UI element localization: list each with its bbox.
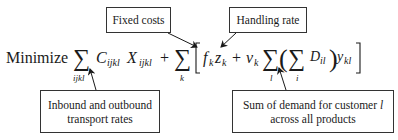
handling-rate-v-sub: k — [254, 57, 259, 68]
sum-index-i: i — [296, 73, 299, 83]
sum-index-k: k — [180, 73, 185, 83]
open-bracket — [196, 43, 200, 73]
flow-var-y-sub: kl — [344, 55, 351, 66]
demand-d: D — [309, 49, 320, 64]
sum-symbol-3: ∑ — [262, 45, 279, 72]
transport-rates-arrow — [90, 69, 96, 90]
sum-index-l: l — [270, 73, 273, 83]
cost-coef-sub: ijkl — [107, 57, 120, 68]
objective-equation: Minimize ∑ ijkl C ijkl X ijkl + ∑ k f k … — [0, 0, 398, 140]
sum-symbol-1: ∑ — [73, 45, 90, 72]
minimize-label: Minimize — [6, 49, 68, 66]
sum-symbol-4: ∑ — [288, 45, 305, 72]
flow-var-x: X — [126, 49, 138, 66]
cost-coef: C — [96, 49, 107, 66]
flow-var-x-sub: ijkl — [139, 57, 152, 68]
sum-symbol-2: ∑ — [174, 45, 191, 72]
handling-rate-v: v — [246, 49, 254, 66]
flow-var-y: y — [335, 49, 344, 64]
close-bracket — [356, 43, 360, 73]
plus-2: + — [232, 49, 241, 66]
sum-index-ijkl: ijkl — [73, 73, 85, 83]
demand-d-sub: il — [320, 55, 326, 66]
open-var-z: z — [214, 49, 222, 66]
open-var-z-sub: k — [222, 57, 227, 68]
fixed-cost-f-sub: k — [209, 57, 214, 68]
handling-rate-arrow — [221, 33, 236, 47]
plus-1: + — [160, 49, 169, 66]
open-paren: ( — [279, 44, 288, 73]
